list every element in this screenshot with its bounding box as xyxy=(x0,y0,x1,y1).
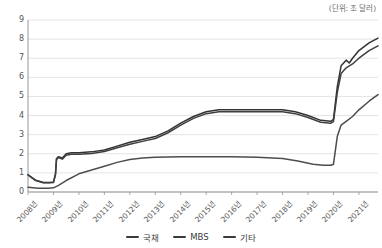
legend-item-other[interactable]: 기타 xyxy=(223,231,256,243)
legend-item-treasury[interactable]: 국채 xyxy=(126,231,159,243)
x-tick-label: 2015년 xyxy=(189,198,218,227)
plot-area xyxy=(0,16,382,196)
legend-label: MBS xyxy=(190,232,208,242)
series-line-total_treasury_mbs_other xyxy=(28,38,378,182)
x-tick-label: 2019년 xyxy=(291,198,320,227)
legend-line-icon xyxy=(173,236,186,238)
unit-note: (단위: 조 달러) xyxy=(329,2,376,13)
x-tick-label: 2020년 xyxy=(316,198,345,227)
x-tick-label: 2012년 xyxy=(113,198,142,227)
gridlines xyxy=(28,20,378,192)
x-tick-label: 2014년 xyxy=(164,198,193,227)
legend-label: 국채 xyxy=(143,231,159,243)
legend-item-mbs[interactable]: MBS xyxy=(173,232,208,242)
x-tick-label: 2016년 xyxy=(214,198,243,227)
series-lines xyxy=(28,38,378,188)
axis-lines xyxy=(28,20,378,195)
legend: 국채MBS기타 xyxy=(0,228,382,246)
series-line-curve_mbs xyxy=(28,46,378,183)
x-tick-label: 2021년 xyxy=(342,198,371,227)
legend-line-icon xyxy=(126,236,139,238)
x-tick-label: 2008년 xyxy=(11,198,40,227)
legend-label: 기타 xyxy=(240,231,256,243)
x-tick-label: 2009년 xyxy=(36,198,65,227)
series-line-curve_other xyxy=(28,95,378,189)
x-tick-label: 2013년 xyxy=(138,198,167,227)
x-tick-label: 2018년 xyxy=(265,198,294,227)
plot-svg xyxy=(0,16,382,196)
x-axis: 2008년2009년2010년2011년2012년2013년2014년2015년… xyxy=(0,196,382,230)
legend-line-icon xyxy=(223,236,236,238)
x-tick-label: 2010년 xyxy=(62,198,91,227)
x-tick-label: 2017년 xyxy=(240,198,269,227)
axis-spine xyxy=(28,20,378,192)
x-tick-label: 2011년 xyxy=(87,198,116,227)
interest-rate-balance-chart: (단위: 조 달러) 0123456789 2008년2009년2010년201… xyxy=(0,0,382,248)
